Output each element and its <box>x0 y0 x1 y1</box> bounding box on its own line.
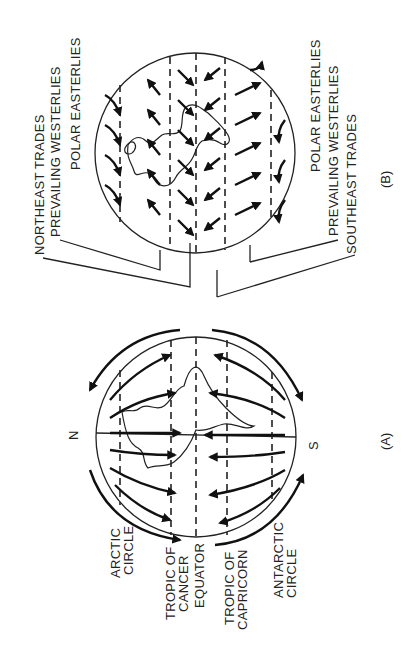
panel-b-labels: NORTHEAST TRADES PREVAILING WESTERLIES P… <box>32 37 393 255</box>
label-arctic-2: CIRCLE <box>121 525 136 575</box>
label-southeast-trades: SOUTHEAST TRADES <box>344 114 359 254</box>
label-polar-easterlies-n: POLAR EASTERLIES <box>68 37 83 170</box>
label-northeast-trades: NORTHEAST TRADES <box>32 114 47 255</box>
south-pole-label: S <box>306 441 321 450</box>
label-polar-easterlies-s: POLAR EASTERLIES <box>308 39 323 172</box>
wind-arrows-b <box>105 62 285 235</box>
island-outline <box>125 142 136 154</box>
panel-a-labels: ARCTIC CIRCLE TROPIC OF CANCER EQUATOR T… <box>108 433 393 630</box>
label-capricorn-2: CAPRICORN <box>235 549 250 630</box>
north-pole-label: N <box>66 431 81 440</box>
caption-a: (A) <box>378 433 393 450</box>
label-prevailing-westerlies-s: PREVAILING WESTERLIES <box>326 65 341 236</box>
wind-diagram: NORTHEAST TRADES PREVAILING WESTERLIES P… <box>0 0 404 647</box>
caption-b: (B) <box>378 171 393 188</box>
label-antarctic-2: CIRCLE <box>284 548 299 598</box>
label-prevailing-westerlies-n: PREVAILING WESTERLIES <box>48 66 63 237</box>
label-equator: EQUATOR <box>192 543 207 608</box>
leader-lines-b <box>43 240 355 297</box>
continent-outline <box>128 105 230 186</box>
globe-a: N S <box>66 330 321 545</box>
label-cancer-2: CANCER <box>176 555 191 612</box>
